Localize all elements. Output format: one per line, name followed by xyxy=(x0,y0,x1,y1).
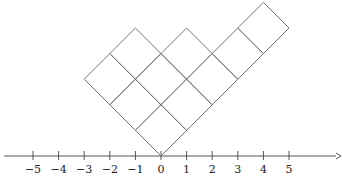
tick-label: −2 xyxy=(102,163,118,176)
diagram-grid xyxy=(84,2,289,156)
arrow-right-icon xyxy=(336,153,341,159)
diagram-cell xyxy=(110,28,161,79)
young-diagram: −5−4−3−2−1012345 xyxy=(0,0,342,177)
tick-labels: −5−4−3−2−1012345 xyxy=(25,163,293,176)
tick-label: 2 xyxy=(209,163,216,176)
number-line xyxy=(4,151,341,160)
tick-label: −5 xyxy=(25,163,41,176)
diagram-cell xyxy=(238,2,289,53)
tick-label: 0 xyxy=(158,163,165,176)
diagram-cell xyxy=(161,79,212,130)
diagram-cell xyxy=(135,105,186,156)
diagram-cell xyxy=(161,28,212,79)
tick-label: −4 xyxy=(50,163,66,176)
tick-label: 1 xyxy=(183,163,190,176)
tick-label: 4 xyxy=(260,163,267,176)
diagram-cell xyxy=(84,54,135,105)
tick-label: 3 xyxy=(234,163,241,176)
tick-label: 5 xyxy=(286,163,293,176)
diagram-cell xyxy=(135,54,186,105)
diagram-cell xyxy=(187,54,238,105)
diagram-cell xyxy=(110,79,161,130)
tick-label: −3 xyxy=(76,163,92,176)
diagram-cell xyxy=(212,28,263,79)
tick-label: −1 xyxy=(127,163,143,176)
